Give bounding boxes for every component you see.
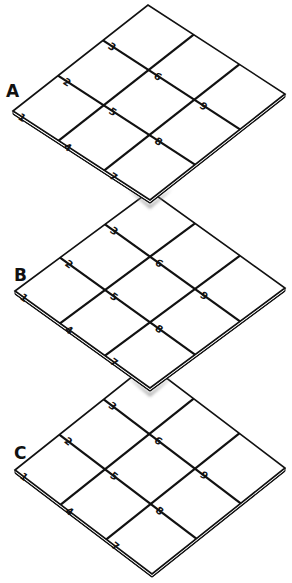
board-label-c: C [14,443,26,463]
board-label-b: B [14,265,27,285]
board-a: 123456789A [6,5,285,203]
stacked-boards-diagram: 123456789C123456789B123456789A [0,0,292,583]
boards: 123456789C123456789B123456789A [6,5,285,577]
board-b: 123456789B [14,191,285,391]
board-top-face [13,5,285,200]
board-label-a: A [6,81,20,101]
board-top-face [15,191,285,388]
